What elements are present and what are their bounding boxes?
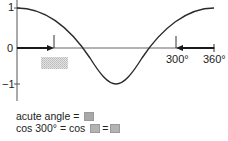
cos-300-text: cos 300° = cos <box>16 122 85 134</box>
equals-sign: = <box>102 122 108 134</box>
cosine-curve <box>17 8 214 84</box>
equation-cos-300: cos 300° = cos = <box>16 122 122 134</box>
answer-box-cos-value[interactable] <box>110 124 120 133</box>
y-label-minus-1: −1 <box>2 79 15 90</box>
acute-angle-text: acute angle = <box>16 110 79 122</box>
arrow-left-head <box>176 45 183 51</box>
x-label-360: 360° <box>203 54 226 65</box>
shaded-answer-box <box>41 57 68 69</box>
answer-box-acute-angle[interactable] <box>84 112 94 121</box>
arrow-right-head <box>47 45 54 51</box>
y-label-1: 1 <box>8 2 14 13</box>
answer-box-cos-angle[interactable] <box>90 124 100 133</box>
equation-acute-angle: acute angle = <box>16 110 96 122</box>
y-label-0: 0 <box>7 43 13 54</box>
x-label-300: 300° <box>166 54 189 65</box>
